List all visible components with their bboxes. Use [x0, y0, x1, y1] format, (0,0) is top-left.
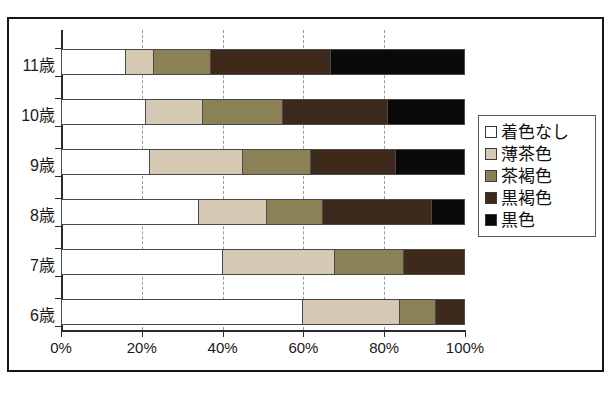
legend-label: 黒色: [501, 212, 535, 229]
x-axis-tick-label: 20%: [127, 339, 157, 356]
x-axis-tick: [384, 331, 385, 337]
bar-segment: [400, 300, 436, 324]
x-axis-tick-label: 60%: [288, 339, 318, 356]
bar-segment: [62, 50, 126, 74]
category-label: 6歳: [30, 302, 55, 326]
y-axis-line: [61, 30, 63, 331]
x-axis-tick-label: 0%: [50, 339, 72, 356]
legend-swatch-icon: [485, 126, 497, 138]
gridline: [384, 30, 385, 330]
x-axis-tick: [303, 331, 304, 337]
y-axis-tick: [55, 276, 61, 277]
legend-item[interactable]: 黒褐色: [485, 187, 591, 209]
y-axis-tick: [55, 176, 61, 177]
bar-segment: [62, 200, 199, 224]
category-label: 10歳: [21, 102, 55, 126]
bar-row: [61, 149, 465, 175]
x-axis-tick: [61, 331, 62, 337]
chart-legend: 着色なし薄茶色茶褐色黒褐色黒色: [478, 115, 596, 237]
legend-swatch-icon: [485, 214, 497, 226]
bar-segment: [267, 200, 323, 224]
bar-row: [61, 99, 465, 125]
bar-segment: [432, 200, 464, 224]
legend-item[interactable]: 着色なし: [485, 121, 591, 143]
bar-segment: [126, 50, 154, 74]
category-label: 11歳: [22, 52, 55, 76]
bar-segment: [62, 250, 223, 274]
legend-swatch-icon: [485, 170, 497, 182]
legend-item[interactable]: 薄茶色: [485, 143, 591, 165]
category-label: 7歳: [30, 252, 55, 276]
bar-segment: [223, 250, 336, 274]
bar-segment: [62, 100, 146, 124]
bar-segment: [150, 150, 242, 174]
bar-segment: [211, 50, 332, 74]
bar-segment: [243, 150, 311, 174]
bar-segment: [331, 50, 464, 74]
bar-segment: [323, 200, 432, 224]
bar-segment: [199, 200, 267, 224]
bar-segment: [154, 50, 210, 74]
legend-item[interactable]: 黒色: [485, 209, 591, 231]
bar-row: [61, 49, 465, 75]
bar-segment: [203, 100, 283, 124]
gridline: [223, 30, 224, 330]
category-label: 9歳: [30, 152, 55, 176]
y-axis-tick: [55, 76, 61, 77]
legend-item[interactable]: 茶褐色: [485, 165, 591, 187]
x-axis-tick-label: 40%: [208, 339, 238, 356]
bar-segment: [404, 250, 464, 274]
legend-swatch-icon: [485, 148, 497, 160]
legend-label: 茶褐色: [501, 168, 552, 185]
bar-row: [61, 299, 465, 325]
legend-label: 着色なし: [501, 124, 569, 141]
bar-segment: [62, 150, 150, 174]
y-axis-tick: [55, 126, 61, 127]
bar-segment: [388, 100, 464, 124]
bar-segment: [62, 300, 303, 324]
x-axis-tick-label: 100%: [446, 339, 484, 356]
legend-label: 黒褐色: [501, 190, 552, 207]
x-axis-tick: [223, 331, 224, 337]
gridline: [142, 30, 143, 330]
bar-segment: [283, 100, 388, 124]
x-axis-tick: [465, 331, 466, 337]
bar-segment: [335, 250, 403, 274]
bar-segment: [396, 150, 464, 174]
y-axis-tick: [55, 226, 61, 227]
x-axis-tick: [142, 331, 143, 337]
bar-segment: [436, 300, 464, 324]
bar-segment: [303, 300, 399, 324]
legend-label: 薄茶色: [501, 146, 552, 163]
bar-row: [61, 199, 465, 225]
bar-row: [61, 249, 465, 275]
x-axis-tick-label: 80%: [369, 339, 399, 356]
stacked-bar-chart: 0%20%40%60%80%100% 11歳10歳9歳8歳7歳6歳 着色なし薄茶…: [0, 0, 613, 395]
gridline: [303, 30, 304, 330]
x-axis-line: [61, 330, 466, 332]
category-label: 8歳: [30, 202, 55, 226]
bar-segment: [146, 100, 202, 124]
bar-segment: [311, 150, 395, 174]
y-axis-tick: [55, 326, 61, 327]
legend-swatch-icon: [485, 192, 497, 204]
